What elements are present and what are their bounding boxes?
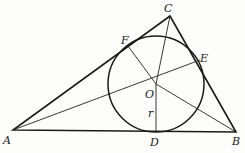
radius-of	[128, 46, 156, 84]
label-d: D	[149, 136, 159, 149]
bisector-b	[156, 84, 236, 132]
label-f: F	[120, 34, 129, 47]
label-b: B	[231, 135, 240, 148]
label-c: C	[164, 2, 173, 15]
bisector-a	[13, 60, 200, 130]
label-o: O	[145, 88, 154, 101]
label-e: E	[199, 52, 208, 65]
incircle-diagram: A B C F E O r D	[0, 0, 245, 153]
label-a: A	[2, 134, 11, 147]
label-r: r	[148, 107, 154, 120]
